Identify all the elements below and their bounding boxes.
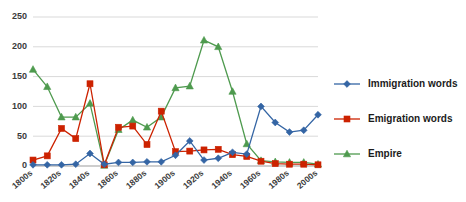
data-point-marker	[130, 123, 136, 129]
data-point-marker	[187, 148, 193, 154]
data-point-marker	[344, 116, 350, 122]
data-point-marker	[115, 159, 122, 166]
data-point-marker	[215, 155, 222, 162]
legend-item-label: Immigration words	[368, 78, 458, 89]
data-point-marker	[44, 161, 51, 168]
data-point-marker	[301, 161, 307, 167]
data-point-marker	[272, 161, 278, 167]
y-axis-tick-label: 100	[12, 101, 27, 111]
y-axis-tick-label: 200	[12, 41, 27, 51]
data-point-marker	[144, 158, 151, 165]
data-point-marker	[129, 159, 136, 166]
x-axis-tick-label: 1960s	[238, 168, 263, 191]
series-line	[33, 40, 318, 165]
x-axis-tick-labels: 1800s1820s1840s1860s1880s1900s1920s1940s…	[10, 168, 320, 191]
data-point-marker	[287, 161, 293, 167]
data-point-marker	[29, 66, 36, 73]
data-point-marker	[344, 81, 351, 88]
data-point-marker	[87, 81, 93, 87]
data-point-marker	[129, 116, 136, 123]
data-point-marker	[200, 36, 207, 43]
x-axis-tick-label: 1940s	[209, 168, 234, 191]
x-axis-tick-label: 1900s	[152, 168, 177, 191]
legend-item-empire[interactable]: Empire	[334, 148, 402, 159]
legend-item-emigration-words[interactable]: Emigration words	[334, 113, 453, 124]
y-axis-tick-labels: 050100150200250	[12, 11, 27, 170]
x-axis-tick-label: 1800s	[10, 168, 35, 191]
data-point-marker	[59, 125, 65, 131]
data-point-marker	[158, 158, 165, 165]
data-point-marker	[229, 88, 236, 95]
line-chart: 050100150200250 1800s1820s1840s1860s1880…	[0, 0, 466, 202]
x-axis-tick-label: 1880s	[124, 168, 149, 191]
y-axis-tick-label: 150	[12, 71, 27, 81]
chart-legend: Immigration wordsEmigration wordsEmpire	[334, 78, 458, 159]
y-axis-tick-label: 250	[12, 11, 27, 21]
data-series-group	[29, 36, 321, 168]
legend-item-label: Empire	[368, 148, 402, 159]
data-point-marker	[286, 129, 293, 136]
data-point-marker	[215, 146, 221, 152]
x-axis-tick-label: 1860s	[95, 168, 120, 191]
x-axis-tick-label: 1820s	[38, 168, 63, 191]
data-point-marker	[201, 147, 207, 153]
x-axis-tick-label: 1920s	[181, 168, 206, 191]
legend-item-immigration-words[interactable]: Immigration words	[334, 78, 458, 89]
data-point-marker	[44, 153, 50, 159]
chart-container: 050100150200250 1800s1820s1840s1860s1880…	[0, 0, 466, 202]
data-point-marker	[58, 161, 65, 168]
data-point-marker	[73, 136, 79, 142]
legend-item-label: Emigration words	[368, 113, 453, 124]
data-point-marker	[116, 124, 122, 130]
y-axis-tick-label: 50	[17, 131, 27, 141]
data-point-marker	[143, 123, 150, 130]
grid-lines	[33, 17, 318, 166]
x-axis-tick-label: 1980s	[266, 168, 291, 191]
x-axis-tick-label: 2000s	[295, 168, 320, 191]
data-point-marker	[315, 162, 321, 168]
data-point-marker	[186, 82, 193, 89]
data-point-marker	[144, 142, 150, 148]
x-axis-tick-label: 1840s	[67, 168, 92, 191]
data-point-marker	[158, 108, 164, 114]
data-point-marker	[258, 158, 264, 164]
